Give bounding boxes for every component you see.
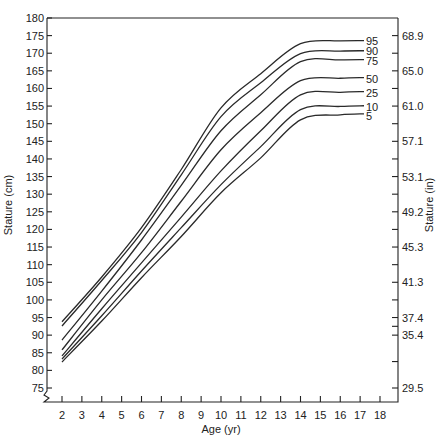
x-tick-label: 11 bbox=[235, 409, 246, 421]
y-tick-label-left: 85 bbox=[32, 347, 44, 359]
x-tick-label: 18 bbox=[374, 409, 386, 421]
y-tick-label-left: 75 bbox=[32, 382, 44, 394]
y-tick-label-right: 61.0 bbox=[402, 100, 423, 112]
x-tick-label: 9 bbox=[198, 409, 204, 421]
y-tick-label-left: 80 bbox=[32, 364, 44, 376]
x-tick-label: 15 bbox=[314, 409, 326, 421]
percentile-label-50: 50 bbox=[366, 73, 378, 85]
y-tick-label-left: 135 bbox=[26, 171, 44, 183]
x-tick-label: 10 bbox=[215, 409, 227, 421]
x-tick-label: 8 bbox=[178, 409, 184, 421]
x-tick-label: 3 bbox=[79, 409, 85, 421]
y-tick-label-right: 68.9 bbox=[402, 30, 423, 42]
y-tick-label-left: 110 bbox=[26, 259, 44, 271]
y-tick-label-left: 150 bbox=[26, 118, 44, 130]
percentile-curve-5 bbox=[62, 114, 364, 362]
x-tick-label: 12 bbox=[255, 409, 267, 421]
x-tick-label: 7 bbox=[158, 409, 164, 421]
y-tick-label-left: 155 bbox=[26, 100, 44, 112]
y-tick-label-right: 57.1 bbox=[402, 135, 423, 147]
y-tick-label-left: 125 bbox=[26, 206, 44, 218]
y-tick-label-left: 105 bbox=[26, 276, 44, 288]
y-tick-label-left: 130 bbox=[26, 188, 44, 200]
y-tick-label-left: 120 bbox=[26, 223, 44, 235]
y-tick-label-left: 95 bbox=[32, 312, 44, 324]
x-tick-label: 16 bbox=[334, 409, 346, 421]
y-tick-label-right: 41.3 bbox=[402, 276, 423, 288]
axis-frame bbox=[44, 18, 398, 402]
percentile-curves: 9590755025105 bbox=[62, 35, 378, 362]
x-tick-label: 17 bbox=[354, 409, 366, 421]
y-tick-label-right: 53.1 bbox=[402, 171, 423, 183]
y-tick-label-left: 165 bbox=[26, 65, 44, 77]
y-tick-label-left: 170 bbox=[26, 47, 44, 59]
y-tick-label-left: 145 bbox=[26, 135, 44, 147]
y-tick-label-left: 180 bbox=[26, 12, 44, 24]
growth-chart: 7580859095100105110115120125130135140145… bbox=[0, 0, 444, 445]
x-tick-label: 14 bbox=[294, 409, 306, 421]
y-tick-label-right: 37.4 bbox=[402, 312, 423, 324]
x-tick-label: 13 bbox=[275, 409, 287, 421]
y-tick-label-left: 160 bbox=[26, 82, 44, 94]
y-axis-label-left: Stature (cm) bbox=[2, 175, 14, 236]
x-tick-label: 6 bbox=[138, 409, 144, 421]
x-axis-label: Age (yr) bbox=[201, 423, 240, 435]
y-tick-label-left: 175 bbox=[26, 30, 44, 42]
percentile-label-5: 5 bbox=[366, 110, 372, 122]
percentile-curve-75 bbox=[62, 59, 364, 340]
y-tick-label-left: 115 bbox=[26, 241, 44, 253]
y-tick-label-right: 49.2 bbox=[402, 206, 423, 218]
y-tick-label-right: 65.0 bbox=[402, 65, 423, 77]
y-tick-label-right: 29.5 bbox=[402, 382, 423, 394]
y-tick-label-right: 45.3 bbox=[402, 241, 423, 253]
percentile-curve-10 bbox=[62, 106, 364, 359]
percentile-curve-25 bbox=[62, 91, 364, 356]
y-tick-label-left: 100 bbox=[26, 294, 44, 306]
y-tick-label-left: 140 bbox=[26, 153, 44, 165]
x-tick-label: 2 bbox=[59, 409, 65, 421]
percentile-label-75: 75 bbox=[366, 55, 378, 67]
y-tick-label-right: 35.4 bbox=[402, 329, 423, 341]
y-tick-label-left: 90 bbox=[32, 329, 44, 341]
y-axis-label-right: Stature (in) bbox=[423, 178, 435, 232]
percentile-curve-95 bbox=[62, 40, 364, 321]
x-tick-label: 5 bbox=[119, 409, 125, 421]
x-tick-label: 4 bbox=[99, 409, 105, 421]
percentile-label-25: 25 bbox=[366, 87, 378, 99]
axes: 7580859095100105110115120125130135140145… bbox=[26, 12, 424, 421]
